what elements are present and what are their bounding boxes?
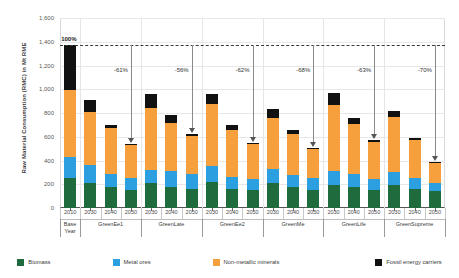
bar-segment-non-metallic-minerals bbox=[145, 108, 157, 170]
x-axis-cell-divider bbox=[404, 208, 405, 219]
x-axis-cell-divider bbox=[323, 208, 324, 219]
bar-segment-biomass bbox=[105, 187, 117, 208]
bar-segment-biomass bbox=[125, 190, 137, 208]
bar-segment-biomass bbox=[165, 187, 177, 208]
x-axis-group-divider bbox=[384, 219, 385, 237]
reduction-percent-label: -56% bbox=[175, 67, 189, 73]
x-axis-year-label: 2030 bbox=[383, 209, 405, 215]
bar-segment-biomass bbox=[267, 183, 279, 208]
x-axis-year-label: 2040 bbox=[343, 209, 365, 215]
x-axis-cell-divider bbox=[161, 208, 162, 219]
y-axis-tick-label: 1,000 bbox=[14, 86, 54, 92]
legend-label: Biomass bbox=[28, 259, 50, 265]
bar-segment-fossil-energy-carriers bbox=[165, 115, 177, 123]
bar-segment-fossil-energy-carriers bbox=[388, 111, 400, 118]
bar-segment-fossil-energy-carriers bbox=[348, 118, 360, 124]
reduction-percent-label: -70% bbox=[418, 67, 432, 73]
x-axis-year-label: 2050 bbox=[120, 209, 142, 215]
reduction-arrow-line bbox=[374, 45, 375, 134]
x-axis-group-label: GreenMe bbox=[259, 221, 327, 228]
legend-label: Non-metallic minerals bbox=[224, 259, 280, 265]
x-axis-cell-divider bbox=[242, 208, 243, 219]
bar-segment-fossil-energy-carriers bbox=[328, 93, 340, 105]
x-axis-cell-divider bbox=[445, 208, 446, 219]
y-axis-title: Raw Material Consumption (RMC) in Mt RME bbox=[21, 18, 27, 198]
x-axis-year-label: 2040 bbox=[160, 209, 182, 215]
bar-segment-fossil-energy-carriers bbox=[186, 134, 198, 136]
bar-segment-non-metallic-minerals bbox=[307, 149, 319, 178]
bar-segment-non-metallic-minerals bbox=[409, 140, 421, 177]
x-axis-cell-divider bbox=[121, 208, 122, 219]
bar-segment-non-metallic-minerals bbox=[226, 130, 238, 176]
x-axis-cell-divider bbox=[222, 208, 223, 219]
bar-segment-biomass bbox=[328, 185, 340, 208]
legend-item-non-metallic-minerals[interactable]: Non-metallic minerals bbox=[213, 259, 280, 266]
x-axis-group-label: GreenLife bbox=[320, 221, 388, 228]
x-axis-cell-divider bbox=[60, 208, 61, 219]
x-axis-year-label: 2030 bbox=[323, 209, 345, 215]
bar-segment-metal-ores bbox=[226, 177, 238, 189]
bar-segment-metal-ores bbox=[368, 179, 380, 190]
x-axis-cell-divider bbox=[283, 208, 284, 219]
reduction-arrow-line bbox=[131, 45, 132, 138]
reduction-arrow-line bbox=[435, 45, 436, 156]
reduction-arrow-head bbox=[310, 142, 316, 147]
x-axis-year-label: 2050 bbox=[181, 209, 203, 215]
bar-segment-biomass bbox=[186, 189, 198, 208]
reduction-percent-label: -62% bbox=[235, 67, 249, 73]
bar-segment-non-metallic-minerals bbox=[429, 163, 441, 183]
x-axis-year-label: 2040 bbox=[282, 209, 304, 215]
x-axis-year-label: 2050 bbox=[302, 209, 324, 215]
reduction-arrow-head bbox=[128, 138, 134, 143]
reduction-arrow-line bbox=[313, 45, 314, 142]
x-axis-year-label: 2050 bbox=[363, 209, 385, 215]
bar-segment-biomass bbox=[307, 190, 319, 208]
bar-segment-metal-ores bbox=[165, 171, 177, 186]
bar-segment-biomass bbox=[368, 190, 380, 208]
x-axis-group-divider bbox=[323, 219, 324, 237]
bar-segment-fossil-energy-carriers bbox=[409, 138, 421, 140]
bar-segment-metal-ores bbox=[206, 166, 218, 183]
y-axis-tick-label: 600 bbox=[14, 134, 54, 140]
x-axis: 2010203020402050203020402050203020402050… bbox=[60, 208, 445, 248]
x-axis-cell-divider bbox=[384, 208, 385, 219]
x-axis-group-divider bbox=[60, 219, 61, 237]
reduction-arrow-line bbox=[192, 45, 193, 128]
bar-segment-metal-ores bbox=[145, 170, 157, 183]
reduction-percent-label: -61% bbox=[114, 67, 128, 73]
bar-segment-metal-ores bbox=[307, 178, 319, 189]
bar-segment-biomass bbox=[226, 189, 238, 208]
x-axis-cell-divider bbox=[344, 208, 345, 219]
legend-item-biomass[interactable]: Biomass bbox=[17, 259, 50, 266]
bar-segment-non-metallic-minerals bbox=[368, 142, 380, 179]
bar-segment-fossil-energy-carriers bbox=[368, 140, 380, 142]
bar-segment-biomass bbox=[145, 183, 157, 208]
bar-segment-fossil-energy-carriers bbox=[64, 45, 76, 90]
bar-segment-biomass bbox=[388, 185, 400, 208]
bar-segment-metal-ores bbox=[125, 178, 137, 190]
legend: BiomassMetal oresNon-metallic mineralsFo… bbox=[0, 254, 459, 270]
x-axis-cell-divider bbox=[80, 208, 81, 219]
bar-segment-non-metallic-minerals bbox=[388, 117, 400, 172]
legend-item-fossil-energy-carriers[interactable]: Fossil energy carriers bbox=[375, 259, 441, 266]
legend-label: Fossil energy carriers bbox=[386, 259, 441, 265]
legend-item-metal-ores[interactable]: Metal ores bbox=[113, 259, 151, 266]
bar-segment-fossil-energy-carriers bbox=[247, 143, 259, 144]
legend-label: Metal ores bbox=[124, 259, 151, 265]
bar-segment-non-metallic-minerals bbox=[247, 144, 259, 178]
bar-segment-fossil-energy-carriers bbox=[125, 144, 137, 145]
bar-segment-non-metallic-minerals bbox=[206, 104, 218, 166]
bar-segment-fossil-energy-carriers bbox=[105, 125, 117, 129]
x-axis-cell-divider bbox=[364, 208, 365, 219]
reduction-arrow-head bbox=[371, 134, 377, 139]
y-axis-tick-label: 800 bbox=[14, 110, 54, 116]
bar-segment-non-metallic-minerals bbox=[348, 124, 360, 174]
x-axis-cell-divider bbox=[303, 208, 304, 219]
x-axis-year-label: 2050 bbox=[242, 209, 264, 215]
x-axis-year-label: 2040 bbox=[404, 209, 426, 215]
bar-segment-metal-ores bbox=[64, 157, 76, 178]
bar-segment-non-metallic-minerals bbox=[125, 145, 137, 178]
bar-segment-biomass bbox=[348, 187, 360, 208]
bar-segment-non-metallic-minerals bbox=[267, 118, 279, 169]
x-axis-cell-divider bbox=[202, 208, 203, 219]
